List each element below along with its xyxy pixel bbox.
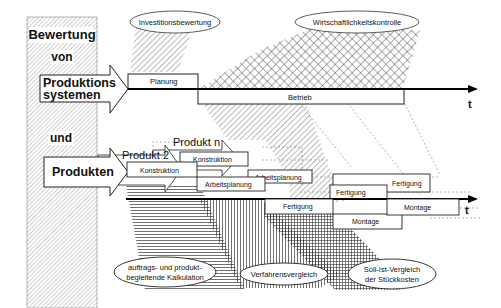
- top-axis-arrowhead: [468, 85, 478, 93]
- systems-line2: systemen: [43, 88, 101, 102]
- pn-konstruktion-label: Konstruktion: [193, 156, 232, 163]
- costing-line2: begleitende Kalkulation: [126, 273, 204, 282]
- diagram-canvas: Bewertung von und Investitionsbewertung …: [0, 0, 501, 308]
- costing-bubble: [114, 257, 216, 287]
- title-und: und: [50, 131, 72, 145]
- product-2-label: Produkt 2: [122, 149, 169, 161]
- phase-planung-label: Planung: [150, 77, 178, 86]
- profitability-shade: [200, 28, 420, 88]
- p1-fertigung-label: Fertigung: [283, 203, 313, 211]
- p2-fertigung-label: Fertigung: [336, 189, 366, 197]
- top-axis-label: t: [468, 98, 472, 110]
- phase-betrieb-label: Betrieb: [288, 93, 312, 102]
- pn-fertigung-label: Fertigung: [392, 180, 422, 188]
- product-n-label: Produkt n: [173, 136, 220, 148]
- p1-konstruktion-label: Konstruktion: [140, 167, 179, 174]
- target-actual-line1: Soll-Ist-Vergleich: [364, 265, 420, 274]
- bottom-axis-arrowhead: [468, 195, 478, 203]
- title-bewertung: Bewertung: [28, 27, 95, 42]
- p2-montage-label: Montage: [404, 204, 431, 212]
- products-label: Produkten: [52, 165, 114, 179]
- p1-montage-label: Montage: [352, 218, 379, 226]
- bottom-axis-label: t: [465, 204, 469, 216]
- target-actual-bubble: [348, 259, 436, 289]
- profitability-label: Wirtschaftlichkeitskontrolle: [313, 18, 401, 27]
- target-actual-line2: der Stückkosten: [365, 275, 419, 284]
- p1-arbeitsplanung-label: Arbeitsplanung: [205, 181, 252, 189]
- investment-label: Investitionsbewertung: [139, 18, 212, 27]
- costing-line1: auftrags- und produkt-: [128, 263, 202, 272]
- process-label: Verfahrensvergleich: [251, 270, 317, 279]
- title-von: von: [51, 50, 72, 64]
